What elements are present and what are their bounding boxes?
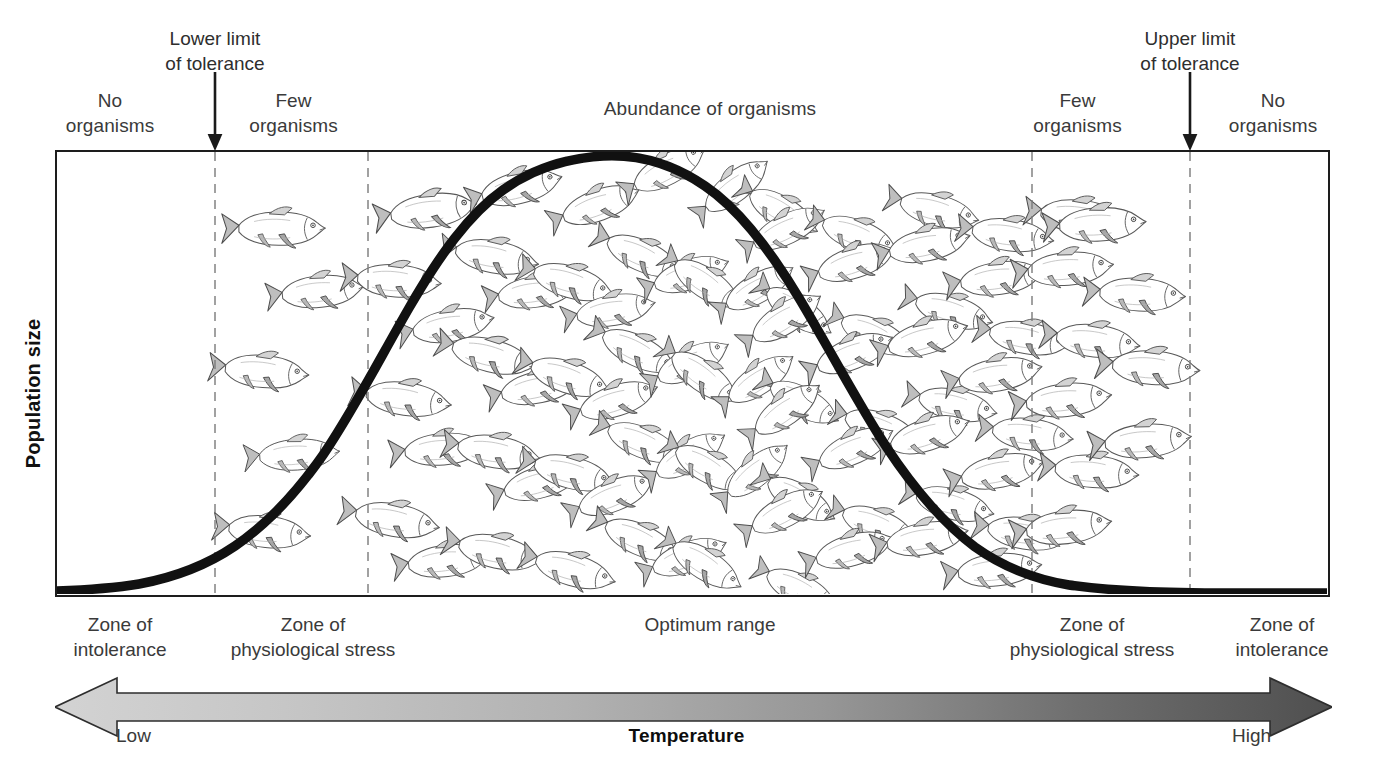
temperature-high-label: High <box>1232 725 1271 747</box>
no-organisms-right-label: No organisms <box>1208 88 1338 138</box>
plot-area <box>55 150 1330 597</box>
tolerance-range-figure: Lower limit of tolerance Upper limit of … <box>0 0 1373 778</box>
x-axis-title: Temperature <box>0 725 1373 747</box>
fish-school <box>207 152 1201 594</box>
no-organisms-left-label: No organisms <box>45 88 175 138</box>
zone-optimum-range-label: Optimum range <box>560 612 860 637</box>
zone-stress-right-label: Zone of physiological stress <box>960 612 1224 662</box>
abundance-of-organisms-label: Abundance of organisms <box>520 96 900 121</box>
zone-stress-left-label: Zone of physiological stress <box>181 612 445 662</box>
lower-limit-of-tolerance-label: Lower limit of tolerance <box>115 26 315 76</box>
upper-limit-of-tolerance-label: Upper limit of tolerance <box>1090 26 1290 76</box>
zone-intolerance-right-label: Zone of intolerance <box>1212 612 1352 662</box>
lower-limit-arrow-icon <box>203 72 227 152</box>
few-organisms-left-label: Few organisms <box>226 88 361 138</box>
zone-intolerance-left-label: Zone of intolerance <box>50 612 190 662</box>
population-curve-and-fish-school <box>57 152 1327 594</box>
y-axis-title: Population size <box>22 299 45 489</box>
upper-limit-arrow-icon <box>1178 72 1202 152</box>
few-organisms-right-label: Few organisms <box>1010 88 1145 138</box>
